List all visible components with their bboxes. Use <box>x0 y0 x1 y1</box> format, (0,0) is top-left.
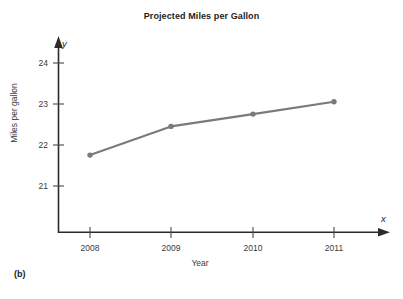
y-tick-label-23: 23 <box>26 99 48 109</box>
figure-label: (b) <box>14 269 26 279</box>
data-point-2011 <box>331 99 336 104</box>
data-point-2009 <box>168 124 173 129</box>
data-line-projected-mpg <box>90 102 334 155</box>
line-chart-plot <box>0 0 403 299</box>
figure-panel: Projected Miles per Gallon 24 23 22 21 2… <box>0 0 403 299</box>
y-tick-label-24: 24 <box>26 58 48 68</box>
x-tick-label-2008: 2008 <box>70 243 110 253</box>
x-tick-label-2010: 2010 <box>233 243 273 253</box>
x-axis-arrowhead <box>378 228 390 237</box>
data-point-2008 <box>87 152 92 157</box>
y-axis-variable: y <box>62 38 67 49</box>
y-tick-label-21: 21 <box>26 181 48 191</box>
data-point-2010 <box>250 111 255 116</box>
x-axis-variable: x <box>381 213 386 224</box>
x-tick-label-2011: 2011 <box>314 243 354 253</box>
x-tick-label-2009: 2009 <box>151 243 191 253</box>
y-axis-label: Miles per gallon <box>9 73 19 153</box>
x-axis-label: Year <box>150 258 250 268</box>
y-tick-label-22: 22 <box>26 140 48 150</box>
